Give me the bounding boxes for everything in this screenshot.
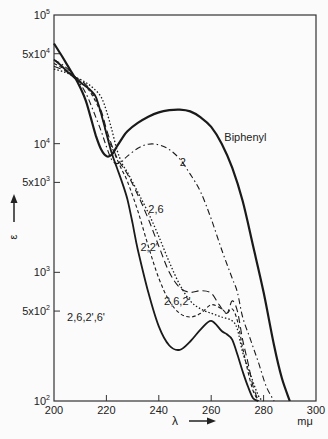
x-tick-label: 240 — [150, 404, 168, 416]
x-axis-label-group: λ mμ — [172, 414, 313, 428]
curve-2-6 — [54, 69, 264, 401]
y-axis-label: ε — [7, 234, 19, 239]
uv-absorption-chart: 1055x1041045x1031035x102102 200220240260… — [0, 0, 328, 439]
x-tick-label: 260 — [202, 404, 220, 416]
curve-2-2 — [54, 66, 258, 401]
x-axis-arrowhead-icon — [207, 418, 216, 425]
y-tick-label: 5x104 — [22, 47, 50, 60]
curve-label: 2,6,2',6' — [67, 311, 105, 323]
x-tick-label: 220 — [97, 404, 115, 416]
x-axis-unit: mμ — [297, 415, 313, 427]
y-tick-label: 105 — [34, 8, 50, 21]
y-tick-label: 5x103 — [22, 175, 50, 188]
curve-label: 2,6,2' — [164, 295, 191, 307]
x-tick-label: 200 — [45, 404, 63, 416]
curve-label: 2 — [180, 156, 186, 168]
y-tick-label: 5x102 — [22, 304, 50, 317]
y-axis-arrowhead-icon — [11, 194, 18, 203]
curve-label: Biphenyl — [224, 131, 266, 143]
x-tick-label: 280 — [254, 404, 272, 416]
x-axis-label: λ — [172, 414, 178, 428]
y-axis-label-group: ε — [7, 194, 19, 239]
curves — [54, 44, 290, 402]
y-tick-label: 103 — [34, 265, 50, 278]
curve-2-6-2-6 — [54, 60, 258, 401]
curve-label: 2,6 — [148, 203, 163, 215]
curve-label: 2,2' — [140, 241, 157, 253]
y-tick-label: 104 — [34, 137, 50, 150]
curve-labels: Biphenyl22,62,2'2,6,2'2,6,2',6' — [67, 131, 266, 323]
plot-frame — [54, 15, 316, 401]
x-axis-ticks: 200220240260280300 — [45, 395, 325, 416]
